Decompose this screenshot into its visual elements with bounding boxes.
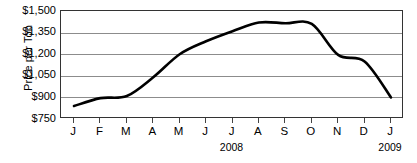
x-axis-month-label: J [195,124,215,138]
x-axis-month-label: J [222,124,242,138]
x-axis-month-label: F [89,124,109,138]
x-tick [152,118,153,123]
x-axis-ticks [60,118,403,123]
x-axis-month-label: A [248,124,268,138]
x-axis-month-label: O [301,124,321,138]
x-axis-month-label: D [354,124,374,138]
x-tick [73,118,74,123]
x-tick [232,118,233,123]
x-tick [179,118,180,123]
y-tick-label: $1,200 [12,48,56,59]
x-axis-labels: JFMAMJJASONDJ [60,124,403,139]
x-tick [205,118,206,123]
x-axis-month-label: M [169,124,189,138]
x-tick [311,118,312,123]
x-axis-month-label: A [142,124,162,138]
price-per-ton-line-chart: Price per Ton $750$900$1,050$1,200$1,350… [0,0,417,163]
x-axis-month-label: J [380,124,400,138]
x-axis-year-captions: 20082009 [60,141,417,155]
x-axis-month-label: M [116,124,136,138]
x-tick [126,118,127,123]
x-tick [99,118,100,123]
x-tick [364,118,365,123]
series-path [74,21,391,106]
x-tick [258,118,259,123]
plot-area [60,10,403,118]
x-axis-month-label: J [63,124,83,138]
y-axis-tick-labels: $750$900$1,050$1,200$1,350$1,500 [10,0,56,163]
x-tick [390,118,391,123]
x-axis-month-label: N [327,124,347,138]
x-tick [284,118,285,123]
y-tick-label: $1,050 [12,69,56,80]
x-tick [337,118,338,123]
y-tick-label: $750 [12,113,56,124]
y-tick-label: $900 [12,91,56,102]
x-axis-year-caption: 2008 [207,141,257,154]
x-axis-year-caption: 2009 [365,141,415,154]
y-tick-label: $1,500 [12,5,56,16]
x-axis-month-label: S [274,124,294,138]
y-tick-label: $1,350 [12,26,56,37]
price-series-line [61,11,404,119]
